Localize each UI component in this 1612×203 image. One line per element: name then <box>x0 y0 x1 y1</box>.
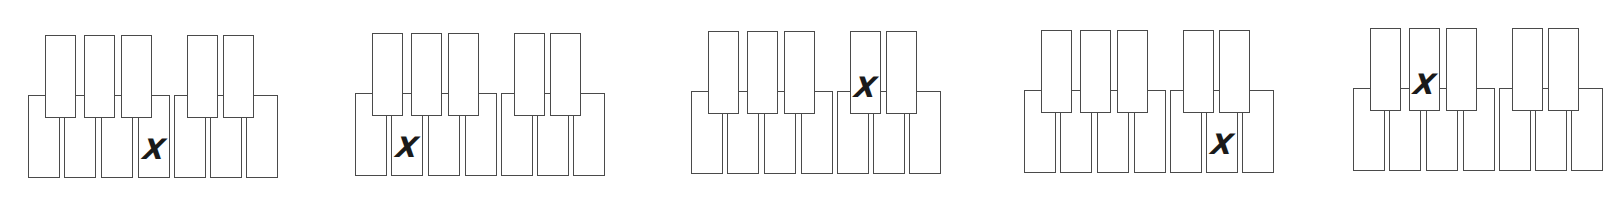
black-key-5 <box>886 31 917 114</box>
x-mark-icon: X <box>390 134 424 162</box>
black-key-4: X <box>850 31 881 114</box>
black-key-3 <box>784 31 815 114</box>
black-key-3 <box>448 33 479 116</box>
black-key-4 <box>187 35 218 118</box>
x-mark-icon: X <box>1408 71 1441 99</box>
keyboard-panel-2: X <box>355 33 607 183</box>
x-mark-icon: X <box>1205 131 1239 159</box>
black-key-4 <box>514 33 545 116</box>
black-key-3 <box>1117 30 1148 113</box>
keyboard-panel-5: X <box>1353 28 1605 178</box>
x-mark-icon: X <box>137 136 171 164</box>
black-key-1 <box>1041 30 1072 113</box>
black-key-2 <box>747 31 778 114</box>
x-mark-icon: X <box>849 74 882 102</box>
black-key-2 <box>84 35 115 118</box>
keyboard-panel-3: X <box>691 31 943 181</box>
black-key-3 <box>121 35 152 118</box>
black-key-2 <box>411 33 442 116</box>
black-key-5 <box>223 35 254 118</box>
black-key-4 <box>1512 28 1543 111</box>
black-key-3 <box>1446 28 1477 111</box>
keyboard-panel-4: X <box>1024 30 1276 180</box>
black-key-1 <box>708 31 739 114</box>
black-key-5 <box>550 33 581 116</box>
black-key-1 <box>45 35 76 118</box>
black-key-2 <box>1080 30 1111 113</box>
black-key-5 <box>1548 28 1579 111</box>
keyboard-panel-1: X <box>28 35 280 185</box>
black-key-4 <box>1183 30 1214 113</box>
black-key-5 <box>1219 30 1250 113</box>
black-key-1 <box>372 33 403 116</box>
black-key-2: X <box>1409 28 1440 111</box>
black-key-1 <box>1370 28 1401 111</box>
